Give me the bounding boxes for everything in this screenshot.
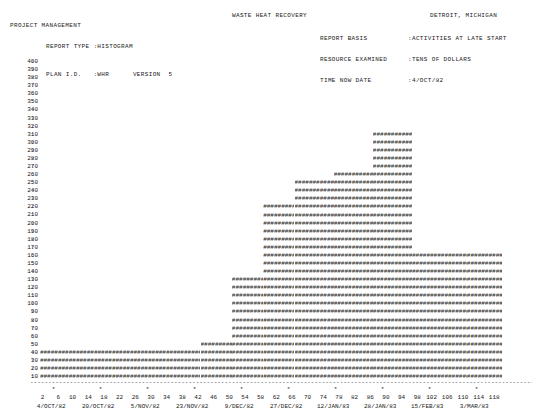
bar-row: ##########	[263, 357, 294, 365]
bar-row: ##########	[263, 365, 294, 373]
bar-row: #############	[295, 341, 334, 349]
bar-row: #############	[334, 292, 373, 300]
x-tick-label: 62	[273, 394, 280, 402]
bar-row: ##########	[232, 325, 263, 333]
histogram-report-page: PROJECT MANAGEMENT REPORT TYPE :HISTOGRA…	[0, 0, 537, 419]
x-tick-label: 66	[288, 394, 295, 402]
bar-row: ############	[467, 349, 502, 357]
bar-row: #############	[373, 171, 412, 179]
bar-row: ############	[467, 325, 502, 333]
bar-row: ##########	[263, 317, 294, 325]
bar-row: ##########	[232, 333, 263, 341]
x-tick-label: 54	[241, 394, 248, 402]
x-date-label: 9/DEC/82	[225, 403, 254, 411]
x-tick-label: 50	[226, 394, 233, 402]
bar-row: ##########	[232, 349, 263, 357]
bar-row: #############	[373, 236, 412, 244]
x-date-tick: *	[475, 387, 479, 393]
report-basis-label: REPORT BASIS	[320, 35, 408, 42]
bar-row: #############	[295, 179, 334, 187]
x-tick-label: 42	[194, 394, 201, 402]
x-date-tick: *	[381, 387, 385, 393]
x-date-tick: *	[334, 387, 338, 393]
x-tick-label: 114	[473, 394, 484, 402]
bar-row: #############	[373, 155, 412, 163]
x-tick-label: 90	[382, 394, 389, 402]
bar-row: #############	[334, 203, 373, 211]
bar-row: #############	[373, 268, 412, 276]
x-date-label: 23/NOV/82	[176, 403, 208, 411]
bar-row: ##################	[412, 284, 467, 292]
x-tick-label: 86	[367, 394, 374, 402]
bar-row: #############	[295, 357, 334, 365]
bar-row: ########################################…	[40, 349, 201, 357]
x-tick-label: 82	[351, 394, 358, 402]
bar-row: #############	[295, 333, 334, 341]
x-date-label: 28/JAN/83	[364, 403, 396, 411]
bar-row: ########################################…	[40, 357, 201, 365]
bar-row: #############	[334, 228, 373, 236]
bar-row: ##########	[263, 252, 294, 260]
bar-row: ##########	[263, 300, 294, 308]
bar-row: #############	[334, 220, 373, 228]
bar-row: ##########	[232, 357, 263, 365]
x-axis-date-ticks: **********	[30, 387, 532, 393]
bar-row: #############	[373, 317, 412, 325]
bar-row: ############	[467, 341, 502, 349]
bar-row: ##########	[263, 203, 294, 211]
bar-row: ##################	[412, 333, 467, 341]
bar-row: #############	[373, 179, 412, 187]
bar-row: ##########	[263, 308, 294, 316]
bar-row: ##########	[263, 325, 294, 333]
bar-row: #############	[295, 300, 334, 308]
bar-row: ##########	[263, 236, 294, 244]
bar-row: #############	[295, 212, 334, 220]
bar-row: ############	[467, 357, 502, 365]
bar-row: #############	[373, 203, 412, 211]
bar-row: #############	[295, 187, 334, 195]
bar-row: ##################	[412, 252, 467, 260]
bar-row: #############	[295, 276, 334, 284]
bar-row: #############	[373, 147, 412, 155]
bar-row: #############	[373, 357, 412, 365]
bar-row: #############	[334, 357, 373, 365]
bar-row: #############	[295, 308, 334, 316]
bar-row: ############	[467, 292, 502, 300]
x-date-label: 20/OCT/82	[82, 403, 114, 411]
x-date-tick: *	[240, 387, 244, 393]
bar-row: #############	[295, 228, 334, 236]
bar-row: ##########	[201, 341, 232, 349]
bar-row: ##################	[412, 349, 467, 357]
bar-row: ##########	[263, 276, 294, 284]
bar-row: ##################	[412, 308, 467, 316]
x-tick-label: 46	[210, 394, 217, 402]
x-date-label: 15/FEB/83	[411, 403, 443, 411]
bar-row: #############	[373, 300, 412, 308]
x-tick-label: 6	[56, 394, 60, 402]
bar-row: #############	[295, 252, 334, 260]
bar-row: #############	[334, 325, 373, 333]
x-tick-label: 22	[116, 394, 123, 402]
bar-row: #############	[334, 236, 373, 244]
report-basis-value: :ACTIVITIES AT LATE START	[408, 35, 507, 42]
bar-row: #############	[334, 341, 373, 349]
bar-row: ##########	[263, 349, 294, 357]
x-date-tick: *	[146, 387, 150, 393]
bar-row: #############	[373, 341, 412, 349]
x-date-tick: *	[99, 387, 103, 393]
histogram-plot-area: 4003903803703603503403303203103002902802…	[0, 58, 537, 388]
x-date-label: 12/JAN/83	[317, 403, 349, 411]
bar-row: #############	[373, 365, 412, 373]
bar-row: #############	[373, 163, 412, 171]
bar-row: #############	[373, 308, 412, 316]
bar-row: #############	[373, 244, 412, 252]
x-tick-label: 110	[458, 394, 469, 402]
x-tick-label: 18	[100, 394, 107, 402]
bar-row: #############	[373, 284, 412, 292]
bar-row: #############	[334, 365, 373, 373]
bar-row: #############	[295, 203, 334, 211]
bar-row: ##########	[263, 268, 294, 276]
histogram-bars: ########################################…	[36, 58, 506, 388]
bar-row: #############	[373, 333, 412, 341]
bar-row: ##########	[232, 284, 263, 292]
